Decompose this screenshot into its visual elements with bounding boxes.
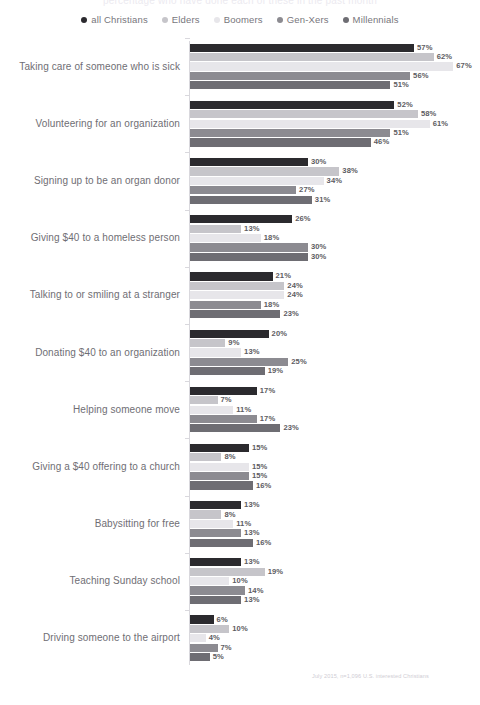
- bar-row[interactable]: 8%: [190, 453, 480, 462]
- bar[interactable]: [190, 472, 249, 480]
- bar-row[interactable]: 11%: [190, 405, 480, 414]
- bar[interactable]: [190, 110, 418, 118]
- bar-row[interactable]: 17%: [190, 414, 480, 423]
- bar-row[interactable]: 16%: [190, 538, 480, 547]
- bar[interactable]: [190, 101, 394, 109]
- bar[interactable]: [190, 653, 210, 661]
- bar[interactable]: [190, 415, 257, 423]
- bar-row[interactable]: 34%: [190, 176, 480, 185]
- bar-row[interactable]: 16%: [190, 481, 480, 490]
- bar-row[interactable]: 30%: [190, 252, 480, 261]
- bar-row[interactable]: 13%: [190, 224, 480, 233]
- bar[interactable]: [190, 615, 214, 623]
- bar[interactable]: [190, 634, 206, 642]
- bar[interactable]: [190, 481, 253, 489]
- bar-row[interactable]: 19%: [190, 367, 480, 376]
- bar[interactable]: [190, 396, 218, 404]
- bar-row[interactable]: 13%: [190, 501, 480, 510]
- bar-row[interactable]: 4%: [190, 634, 480, 643]
- bar[interactable]: [190, 558, 241, 566]
- bar-row[interactable]: 25%: [190, 357, 480, 366]
- bar-row[interactable]: 23%: [190, 309, 480, 318]
- legend-item[interactable]: Boomers: [214, 14, 263, 25]
- bar[interactable]: [190, 186, 296, 194]
- bar-row[interactable]: 30%: [190, 243, 480, 252]
- bar-row[interactable]: 17%: [190, 386, 480, 395]
- bar[interactable]: [190, 568, 265, 576]
- bar-row[interactable]: 57%: [190, 43, 480, 52]
- bar[interactable]: [190, 424, 280, 432]
- bar[interactable]: [190, 453, 221, 461]
- bar-row[interactable]: 61%: [190, 119, 480, 128]
- bar-row[interactable]: 30%: [190, 157, 480, 166]
- bar[interactable]: [190, 310, 280, 318]
- bar[interactable]: [190, 586, 245, 594]
- bar-row[interactable]: 11%: [190, 519, 480, 528]
- bar-row[interactable]: 10%: [190, 576, 480, 585]
- bar-row[interactable]: 20%: [190, 329, 480, 338]
- bar[interactable]: [190, 234, 261, 242]
- bar[interactable]: [190, 53, 434, 61]
- bar[interactable]: [190, 282, 284, 290]
- bar[interactable]: [190, 253, 308, 261]
- bar-row[interactable]: 14%: [190, 586, 480, 595]
- bar-row[interactable]: 13%: [190, 348, 480, 357]
- bar[interactable]: [190, 367, 265, 375]
- bar[interactable]: [190, 330, 269, 338]
- bar[interactable]: [190, 243, 308, 251]
- bar[interactable]: [190, 177, 324, 185]
- bar-row[interactable]: 8%: [190, 510, 480, 519]
- bar[interactable]: [190, 539, 253, 547]
- bar-row[interactable]: 21%: [190, 272, 480, 281]
- bar[interactable]: [190, 167, 339, 175]
- bar-row[interactable]: 18%: [190, 233, 480, 242]
- bar-row[interactable]: 10%: [190, 624, 480, 633]
- bar[interactable]: [190, 406, 233, 414]
- bar-row[interactable]: 51%: [190, 81, 480, 90]
- bar[interactable]: [190, 62, 453, 70]
- bar[interactable]: [190, 520, 233, 528]
- bar-row[interactable]: 15%: [190, 462, 480, 471]
- bar-row[interactable]: 24%: [190, 281, 480, 290]
- bar-row[interactable]: 13%: [190, 529, 480, 538]
- bar[interactable]: [190, 196, 312, 204]
- bar[interactable]: [190, 625, 229, 633]
- bar[interactable]: [190, 577, 229, 585]
- bar-row[interactable]: 31%: [190, 195, 480, 204]
- bar-row[interactable]: 52%: [190, 100, 480, 109]
- bar-row[interactable]: 13%: [190, 558, 480, 567]
- bar-row[interactable]: 9%: [190, 338, 480, 347]
- bar[interactable]: [190, 510, 221, 518]
- bar-row[interactable]: 23%: [190, 424, 480, 433]
- bar-row[interactable]: 5%: [190, 652, 480, 661]
- bar[interactable]: [190, 215, 292, 223]
- bar[interactable]: [190, 529, 241, 537]
- bar-row[interactable]: 15%: [190, 443, 480, 452]
- bar-row[interactable]: 46%: [190, 138, 480, 147]
- bar-row[interactable]: 13%: [190, 595, 480, 604]
- bar-row[interactable]: 7%: [190, 643, 480, 652]
- bar-row[interactable]: 6%: [190, 615, 480, 624]
- bar[interactable]: [190, 339, 225, 347]
- bar[interactable]: [190, 272, 273, 280]
- bar-row[interactable]: 26%: [190, 215, 480, 224]
- bar[interactable]: [190, 463, 249, 471]
- bar[interactable]: [190, 138, 371, 146]
- bar-row[interactable]: 18%: [190, 300, 480, 309]
- bar[interactable]: [190, 348, 241, 356]
- bar[interactable]: [190, 81, 390, 89]
- bar[interactable]: [190, 44, 414, 52]
- bar-row[interactable]: 19%: [190, 567, 480, 576]
- bar-row[interactable]: 58%: [190, 110, 480, 119]
- bar-row[interactable]: 56%: [190, 71, 480, 80]
- bar-row[interactable]: 62%: [190, 52, 480, 61]
- bar[interactable]: [190, 72, 410, 80]
- bar-row[interactable]: 7%: [190, 396, 480, 405]
- bar[interactable]: [190, 596, 241, 604]
- bar[interactable]: [190, 501, 241, 509]
- bar[interactable]: [190, 358, 288, 366]
- bar-row[interactable]: 15%: [190, 471, 480, 480]
- bar-row[interactable]: 51%: [190, 128, 480, 137]
- bar[interactable]: [190, 644, 218, 652]
- bar[interactable]: [190, 291, 284, 299]
